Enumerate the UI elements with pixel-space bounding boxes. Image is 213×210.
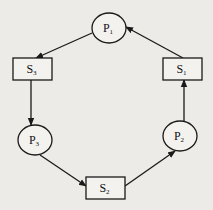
node-s1: S1: [163, 58, 202, 80]
node-s3: S3: [13, 58, 52, 80]
edge-p1-to-s3: [36, 33, 92, 58]
node-p1: P1: [92, 13, 126, 43]
edge-s1-to-p1: [126, 27, 183, 58]
edge-s2-to-p2: [125, 151, 175, 186]
diagram-canvas: P1P2P3S1S2S3: [0, 0, 213, 210]
resource-allocation-graph: P1P2P3S1S2S3: [0, 0, 213, 210]
node-p2: P2: [163, 121, 197, 151]
edge-p3-to-s2: [40, 155, 86, 186]
node-s2: S2: [86, 177, 125, 199]
node-p3: P3: [18, 125, 52, 155]
